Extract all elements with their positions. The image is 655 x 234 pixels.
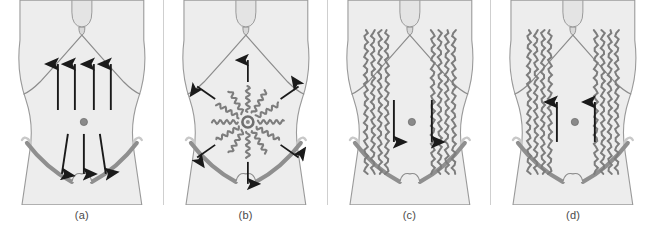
- panel-d-illustration: [491, 0, 655, 205]
- panel-d-caption: (d): [491, 205, 655, 225]
- navel-c: [408, 118, 415, 125]
- panel-divider-b: [327, 0, 328, 205]
- panel-b-illustration: [164, 0, 328, 205]
- panel-c-illustration: [328, 0, 492, 205]
- panel-divider-c: [490, 0, 491, 205]
- figure-root: (a): [0, 0, 655, 234]
- panel-d[interactable]: (d): [491, 0, 655, 234]
- panel-c[interactable]: (c): [328, 0, 492, 234]
- panel-c-caption: (c): [328, 205, 492, 225]
- navel-a: [80, 118, 87, 125]
- panel-a-illustration: [0, 0, 164, 205]
- panel-b-caption: (b): [164, 205, 328, 225]
- navel-d: [572, 118, 579, 125]
- panel-a-caption: (a): [0, 205, 164, 225]
- panel-divider-a: [163, 0, 164, 205]
- panel-strip: (a): [0, 0, 655, 234]
- panel-a[interactable]: (a): [0, 0, 164, 234]
- panel-b[interactable]: (b): [164, 0, 328, 234]
- navel-b: [242, 116, 253, 127]
